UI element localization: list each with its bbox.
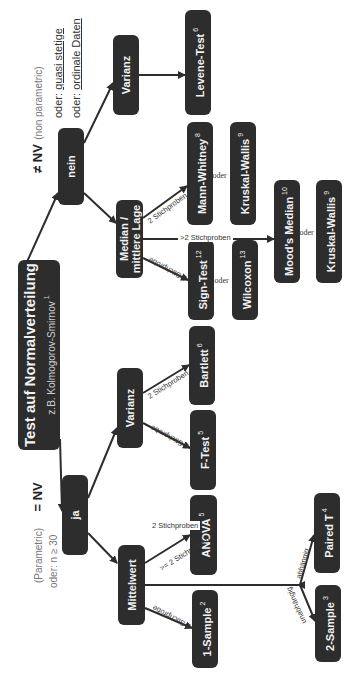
edge-label-gt2-stichproben: >2 Stichproben (178, 233, 233, 242)
parametric-heading: (Parametric) = NV (28, 482, 46, 583)
node-ja: ja (62, 475, 88, 555)
node-median-mittlere-lage: Median /mittlere Lage (116, 200, 143, 278)
root-subtitle: z.B. Kolmogorov-Smirnov1 (41, 295, 58, 414)
root-node-test-normalverteilung: Test auf Normalverteilung z.B. Kolmogoro… (18, 260, 60, 450)
flowchart-canvas: (Parametric) = NV oder: n ≥ 30 ≠ NV (non… (0, 0, 353, 683)
node-varianz-nonparam: Varianz (113, 35, 139, 115)
root-title: Test auf Normalverteilung (21, 263, 38, 447)
nonparametric-note: (non parametric) (33, 66, 44, 139)
node-f-test: F-Test5 (190, 410, 216, 490)
node-1-sample: 1-Sample2 (192, 590, 218, 668)
node-moods-median: Mood's Median10 (274, 180, 300, 283)
node-kruskal-wallis-2: Kruskal-Wallis9 (316, 180, 342, 283)
oder-label-moods-kruskal: oder (299, 228, 313, 237)
node-nein: nein (58, 128, 84, 205)
parametric-note: (Parametric) (33, 528, 44, 583)
sample-size-note: oder: n ≥ 30 (48, 535, 59, 588)
node-mann-whitney: Mann-Whitney8 (187, 122, 213, 225)
node-wilcoxon: Wilcoxon13 (232, 240, 258, 320)
oder-label-sign-wilcoxon: oder (214, 276, 228, 285)
node-varianz-param: Varianz (117, 368, 143, 448)
alt-ordinale-daten: oder: ordinale Daten (70, 18, 82, 118)
node-mittelwert: Mittelwert (118, 545, 145, 625)
node-bartlett: Bartlett6 (189, 326, 215, 405)
node-paired-t: Paired T4 (314, 493, 340, 573)
edge-label-2-stichproben-mittelwert: 2 Stichproben (150, 521, 200, 530)
nonparametric-heading: ≠ NV (non parametric) (28, 66, 46, 173)
node-sign-test: Sign-Test12 (188, 240, 214, 320)
alt-quasi-stetige: oder: quasi stetige (52, 28, 64, 118)
nv-symbol: = NV (30, 482, 45, 511)
node-levene-test: Levene-Test6 (185, 10, 211, 115)
not-nv-symbol: ≠ NV (30, 144, 45, 173)
node-kruskal-wallis-1: Kruskal-Wallis9 (230, 122, 256, 225)
oder-label-mann-kruskal: oder (212, 171, 226, 180)
node-2-sample: 2-Sample3 (315, 585, 341, 662)
